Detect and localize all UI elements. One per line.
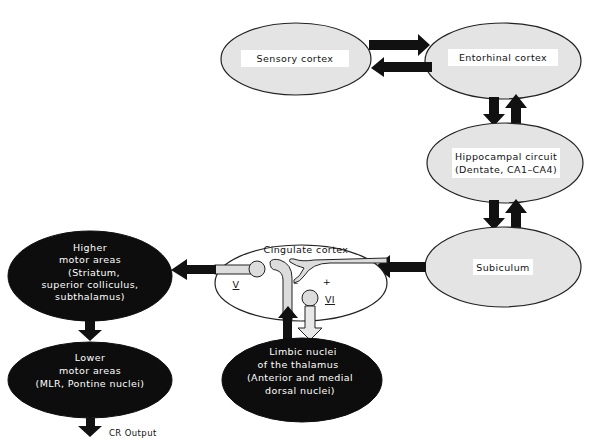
node-hippocampal-circuit: Hippocampal circuit (Dentate, CA1–CA4): [427, 123, 583, 203]
arrow-cr-output: [78, 418, 102, 437]
lower-motor-line3: (MLR, Pontine nuclei): [36, 378, 145, 389]
hippocampal-label-line2: (Dentate, CA1–CA4): [455, 164, 557, 175]
minus-sign: –: [293, 277, 298, 288]
lower-motor-line2: motor areas: [59, 365, 121, 376]
higher-motor-line5: subthalamus): [55, 291, 125, 302]
lower-motor-line1: Lower: [75, 352, 105, 363]
node-entorhinal-cortex: Entorhinal cortex: [425, 23, 581, 99]
cingulate-cortex-label: Cingulate cortex: [264, 244, 349, 255]
arrow-cingulate-to-higher-motor: [171, 259, 216, 280]
arrow-entorhinal-to-hippocampal: [483, 97, 505, 126]
layer-vi-label: VI: [325, 294, 335, 305]
node-higher-motor-areas: Higher motor areas (Striatum, superior c…: [8, 231, 172, 321]
higher-motor-line2: motor areas: [59, 254, 121, 265]
entorhinal-cortex-label: Entorhinal cortex: [459, 52, 547, 63]
node-subiculum: Subiculum: [425, 227, 581, 307]
layer-vi-neuron: [302, 290, 318, 306]
higher-motor-line4: superior colliculus,: [42, 279, 139, 290]
arrow-higher-to-lower-motor: [78, 321, 102, 341]
limbic-line1: Limbic nuclei: [269, 346, 337, 357]
layer-v-label: V: [233, 279, 240, 290]
limbic-line4: dorsal nuclei): [265, 385, 335, 396]
node-cingulate-cortex: Cingulate cortex V – + VI: [215, 244, 387, 321]
cr-output-label: CR Output: [109, 428, 157, 438]
higher-motor-line1: Higher: [73, 242, 107, 253]
higher-motor-line3: (Striatum,: [68, 267, 120, 278]
subiculum-label: Subiculum: [476, 262, 529, 273]
node-sensory-cortex: Sensory cortex: [221, 23, 371, 95]
sensory-cortex-label: Sensory cortex: [257, 53, 334, 64]
arrow-subiculum-to-hippocampal: [505, 199, 527, 230]
diagram-canvas: Sensory cortex Entorhinal cortex Hippoca…: [0, 0, 598, 448]
node-lower-motor-areas: Lower motor areas (MLR, Pontine nuclei): [8, 342, 172, 418]
limbic-line2: of the thalamus: [257, 359, 338, 370]
hippocampal-label-line1: Hippocampal circuit: [455, 151, 557, 162]
node-limbic-nuclei-thalamus: Limbic nuclei of the thalamus (Anterior …: [222, 338, 382, 422]
arrow-hippocampal-to-subiculum: [483, 200, 505, 230]
arrow-sensory-to-entorhinal: [369, 34, 430, 56]
limbic-line3: (Anterior and medial: [247, 372, 353, 383]
plus-sign: +: [323, 276, 331, 287]
arrow-entorhinal-to-sensory: [371, 57, 432, 77]
